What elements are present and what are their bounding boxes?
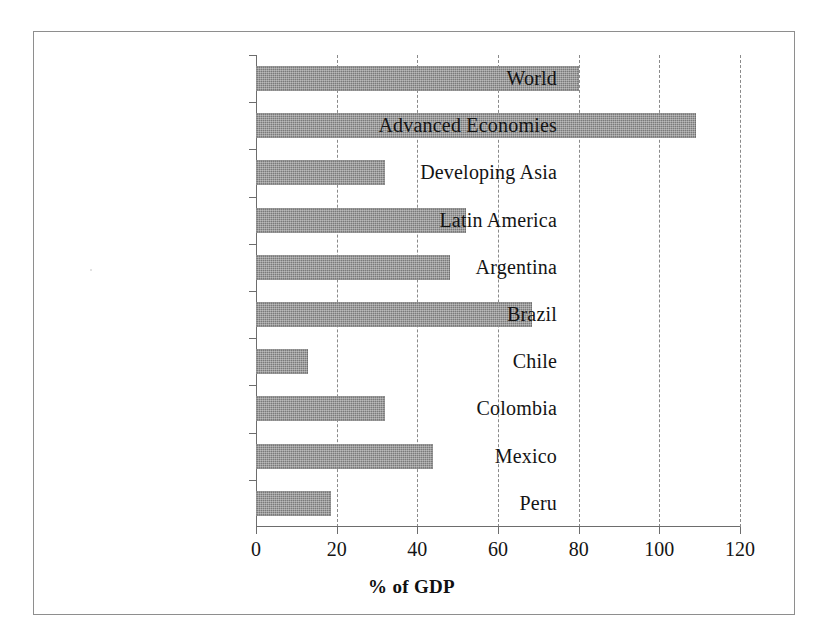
- value-tick-0: [256, 527, 257, 534]
- value-tick-label-20: 20: [307, 538, 367, 560]
- value-tick-120: [740, 527, 741, 534]
- category-label-argentina: Argentina: [476, 257, 557, 277]
- value-tick-label-80: 80: [549, 538, 609, 560]
- bar-chile: [256, 349, 308, 374]
- category-label-advanced-economies: Advanced Economies: [378, 115, 557, 135]
- category-tick: [249, 149, 256, 150]
- bar-brazil: [256, 302, 532, 327]
- value-tick-label-120: 120: [710, 538, 770, 560]
- bar-row: [256, 291, 740, 338]
- bar-row: [256, 55, 740, 102]
- bar-peru: [256, 491, 331, 516]
- category-label-chile: Chile: [513, 351, 557, 371]
- value-tick-20: [337, 527, 338, 534]
- bar-latin-america: [256, 208, 466, 233]
- category-tick: [249, 102, 256, 103]
- value-tick-label-100: 100: [629, 538, 689, 560]
- category-label-mexico: Mexico: [495, 446, 557, 466]
- value-tick-60: [498, 527, 499, 534]
- category-label-peru: Peru: [520, 493, 557, 513]
- category-tick: [249, 55, 256, 56]
- value-tick-40: [417, 527, 418, 534]
- gridline-120: [740, 55, 741, 527]
- category-label-colombia: Colombia: [477, 398, 558, 418]
- x-axis-title: % of GDP: [0, 576, 823, 598]
- category-tick: [249, 197, 256, 198]
- bar-argentina: [256, 255, 450, 280]
- category-label-world: World: [507, 68, 558, 88]
- bar-developing-asia: [256, 160, 385, 185]
- value-tick-label-60: 60: [468, 538, 528, 560]
- category-label-brazil: Brazil: [507, 304, 557, 324]
- value-tick-80: [579, 527, 580, 534]
- category-label-latin-america: Latin America: [439, 210, 557, 230]
- category-tick: [249, 433, 256, 434]
- category-tick: [249, 385, 256, 386]
- category-tick: [249, 244, 256, 245]
- value-tick-label-40: 40: [387, 538, 447, 560]
- bar-mexico: [256, 444, 433, 469]
- category-tick: [249, 291, 256, 292]
- scan-speckle: [90, 269, 92, 271]
- bar-colombia: [256, 396, 385, 421]
- category-tick: [249, 480, 256, 481]
- bar-row: [256, 338, 740, 385]
- value-tick-label-0: 0: [226, 538, 286, 560]
- category-label-developing-asia: Developing Asia: [420, 162, 557, 182]
- value-tick-100: [659, 527, 660, 534]
- bar-row: [256, 480, 740, 527]
- category-tick: [249, 338, 256, 339]
